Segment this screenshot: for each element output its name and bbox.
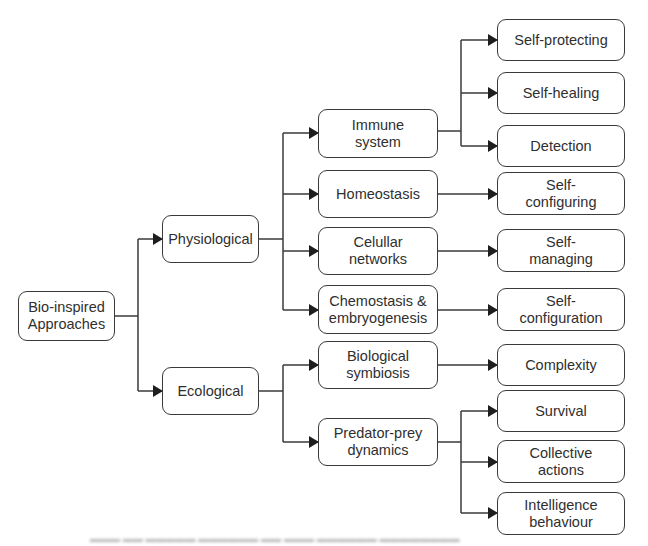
node-intelligence-behaviour: Intelligence behaviour <box>497 492 625 535</box>
node-predator-prey-dynamics: Predator-prey dynamics <box>318 418 438 466</box>
node-self-configuring: Self- configuring <box>497 172 625 215</box>
node-homeostasis: Homeostasis <box>318 170 438 218</box>
node-physiological: Physiological <box>162 215 259 263</box>
node-self-protecting: Self-protecting <box>497 19 625 61</box>
node-collective-actions: Collective actions <box>497 440 625 483</box>
node-self-healing: Self-healing <box>497 72 625 114</box>
node-bio-inspired-approaches: Bio-inspired Approaches <box>18 291 115 341</box>
node-self-configuration: Self- configuration <box>497 288 625 331</box>
node-survival: Survival <box>497 390 625 432</box>
node-complexity: Complexity <box>497 344 625 386</box>
node-biological-symbiosis: Biological symbiosis <box>318 341 438 389</box>
bio-inspired-approaches-diagram: Bio-inspired Approaches Physiological Ec… <box>0 0 648 546</box>
node-chemostasis-embryogenesis: Chemostasis & embryogenesis <box>318 285 438 334</box>
node-immune-system: Immune system <box>318 109 438 158</box>
node-detection: Detection <box>497 125 625 167</box>
figure-caption-cropped: ▬▬▬ ▬▬ ▬▬▬▬▬ ▬▬▬▬▬▬ ▬▬ ▬▬▬ ▬▬▬▬▬▬ ▬▬▬▬▬▬… <box>90 533 470 543</box>
node-ecological: Ecological <box>162 367 259 415</box>
node-celullar-networks: Celullar networks <box>318 227 438 275</box>
node-self-managing: Self- managing <box>497 229 625 272</box>
